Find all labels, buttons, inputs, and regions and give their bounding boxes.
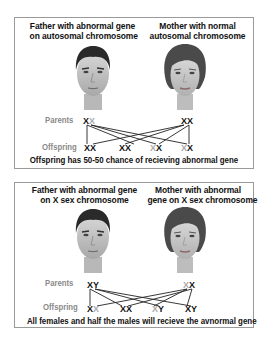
inheritance-lines bbox=[15, 18, 255, 170]
offspring-1: XX bbox=[87, 305, 99, 314]
chromosome-normal: X bbox=[89, 116, 95, 126]
offspring-4: XY bbox=[185, 305, 197, 314]
offspring-4: XX bbox=[181, 144, 193, 153]
offspring-3: XY bbox=[152, 305, 164, 314]
chromosome: Y bbox=[191, 304, 197, 314]
chromosome: X bbox=[90, 143, 96, 153]
chromosome: X bbox=[187, 116, 193, 126]
chromosome: X bbox=[187, 143, 193, 153]
chromosome-abnormal: X bbox=[189, 280, 195, 290]
chromosome-y: Y bbox=[93, 280, 99, 290]
father-chromosomes: XY bbox=[87, 281, 99, 290]
offspring-3: XX bbox=[150, 144, 162, 153]
offspring-2: XX bbox=[120, 305, 132, 314]
summary-text: All females and half the males will reci… bbox=[27, 316, 241, 326]
inheritance-lines bbox=[15, 183, 255, 329]
father-chromosomes: XX bbox=[83, 117, 95, 126]
mother-chromosomes: XX bbox=[181, 117, 193, 126]
chromosome: X bbox=[126, 304, 132, 314]
x-linked-inheritance-panel: Father with abnormal gene on X sex chrom… bbox=[14, 182, 254, 328]
chromosome: X bbox=[156, 143, 162, 153]
mother-chromosomes: XX bbox=[183, 281, 195, 290]
chromosome: Y bbox=[158, 304, 164, 314]
summary-text: Offspring has 50-50 chance of recieving … bbox=[27, 155, 241, 165]
autosomal-inheritance-panel: Father with abnormal gene on autosomal c… bbox=[14, 17, 254, 169]
chromosome: X bbox=[125, 143, 131, 153]
offspring-1: XX bbox=[84, 144, 96, 153]
offspring-2: XX bbox=[119, 144, 131, 153]
chromosome: X bbox=[93, 304, 99, 314]
